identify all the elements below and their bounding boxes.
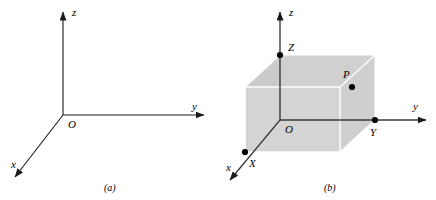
point-X-label: X (248, 157, 257, 169)
panel-a-y-axis-label: y (191, 100, 197, 112)
panel-a-x-axis-label: x (10, 158, 16, 170)
point-Z-label: Z (288, 41, 295, 53)
point-P-marker (349, 84, 355, 90)
point-Y-marker (372, 117, 378, 123)
panel-b-caption: (b) (324, 182, 336, 194)
panel-b-origin-label: O (285, 123, 293, 135)
panel-a-z-axis-label: z (71, 6, 77, 18)
point-X-marker (242, 149, 248, 155)
point-Z-marker (277, 52, 283, 58)
figure-container: z y x O (a) (0, 0, 436, 200)
panel-b-z-axis-label: z (288, 6, 294, 18)
panel-a-origin-label: O (68, 118, 76, 130)
panel-a-x-axis (15, 115, 63, 177)
point-Y-label: Y (370, 126, 378, 138)
coordinate-systems-figure: z y x O (a) (0, 0, 436, 200)
point-P-label: P (342, 68, 350, 80)
panel-a: z y x O (a) (10, 6, 204, 194)
panel-b-box (245, 55, 375, 152)
panel-a-caption: (a) (104, 182, 116, 194)
panel-b-x-axis-label: x (225, 161, 231, 173)
panel-b-y-axis-label: y (412, 100, 418, 112)
panel-b: z y x O P X Y Z (b) (225, 6, 426, 194)
